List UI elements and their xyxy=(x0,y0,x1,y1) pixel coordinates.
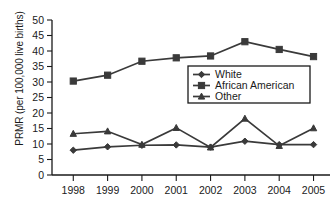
data-point-marker xyxy=(242,39,248,45)
y-tick-label: 20 xyxy=(32,107,44,119)
data-point-marker xyxy=(70,78,76,84)
x-axis-ticks: 19981999200020012002200320042005 xyxy=(62,175,326,196)
y-tick-label: 45 xyxy=(32,29,44,41)
x-tick-label: 2005 xyxy=(302,184,326,196)
y-tick-label: 25 xyxy=(32,91,44,103)
y-tick-label: 40 xyxy=(32,45,44,57)
y-tick-label: 15 xyxy=(32,122,44,134)
data-point-marker xyxy=(276,46,282,52)
line-chart-plot: 05101520253035404550 1998199920002001200… xyxy=(0,0,335,201)
data-point-marker xyxy=(105,72,111,78)
y-tick-label: 50 xyxy=(32,14,44,26)
y-axis-ticks: 05101520253035404550 xyxy=(32,14,52,181)
y-tick-label: 30 xyxy=(32,76,44,88)
legend-label: Other xyxy=(215,90,242,102)
y-tick-label: 5 xyxy=(38,153,44,165)
x-tick-label: 2001 xyxy=(165,184,189,196)
data-point-marker xyxy=(139,58,145,64)
x-tick-label: 2002 xyxy=(199,184,223,196)
data-point-marker xyxy=(242,138,248,144)
x-tick-label: 2003 xyxy=(233,184,257,196)
legend-marker xyxy=(198,82,204,88)
data-point-marker xyxy=(242,115,248,121)
x-tick-label: 2004 xyxy=(268,184,292,196)
data-point-marker xyxy=(173,142,179,148)
data-point-marker xyxy=(173,124,179,130)
y-tick-label: 0 xyxy=(38,169,44,181)
chart-legend: WhiteAfrican AmericanOther xyxy=(188,66,310,103)
chart-figure: PRMR (per 100,000 live births) 051015202… xyxy=(0,0,335,201)
data-point-marker xyxy=(70,147,76,153)
data-point-marker xyxy=(310,125,316,131)
x-tick-label: 1999 xyxy=(96,184,120,196)
data-point-marker xyxy=(104,144,110,150)
y-tick-label: 35 xyxy=(32,60,44,72)
data-point-marker xyxy=(310,53,316,59)
x-tick-label: 1998 xyxy=(62,184,86,196)
x-tick-label: 2000 xyxy=(130,184,154,196)
data-point-marker xyxy=(310,141,316,147)
y-tick-label: 10 xyxy=(32,138,44,150)
data-point-marker xyxy=(173,55,179,61)
data-point-marker xyxy=(207,53,213,59)
